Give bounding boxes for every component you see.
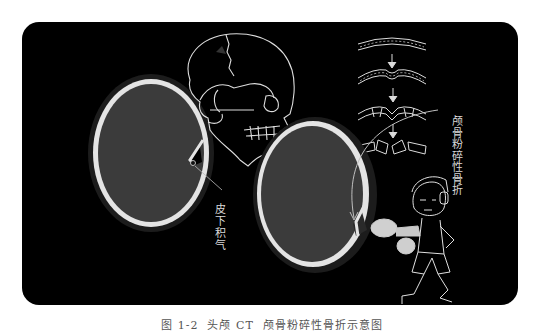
figure-panel: 皮下积气 颅骨粉碎性骨折 (22, 22, 518, 305)
boxer-character (371, 177, 454, 304)
figure-illustration (22, 22, 518, 305)
fracture-diagram (356, 38, 426, 154)
skull-shade (216, 46, 226, 54)
label-subcutaneous-emphysema: 皮下积气 (214, 203, 225, 251)
label-comminuted-skull-fracture: 颅骨粉碎性骨折 (451, 115, 462, 196)
ct-scan-left (88, 74, 222, 232)
figure-caption: 图 1-2 头颅 CT 颅骨粉碎性骨折示意图 (0, 316, 544, 332)
